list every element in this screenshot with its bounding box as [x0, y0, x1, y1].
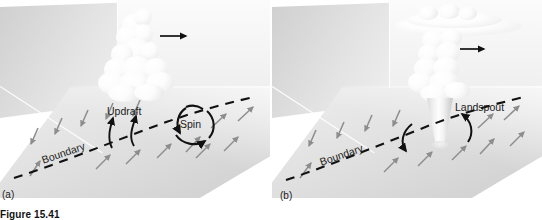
updraft-arrows-a	[109, 116, 136, 148]
panel-b-landspout-stage: Landspout Boundary (b)	[272, 0, 540, 205]
panel-tag-a: (a)	[2, 189, 14, 200]
landspout-label: Landspout	[455, 101, 504, 113]
panel-b-scene: Landspout Boundary (b)	[272, 0, 540, 205]
surface-wind-arrows-south-b	[300, 106, 524, 178]
surface-wind-arrows-south-far-a	[196, 137, 238, 158]
panel-a-scene: Updraft Spin Boundary (a)	[0, 0, 268, 205]
spin-label: Spin	[180, 118, 201, 130]
figure-caption: Figure 15.41	[0, 209, 60, 220]
panel-a-developing-stage: Updraft Spin Boundary (a)	[0, 0, 268, 205]
surface-wind-arrows-south-a	[30, 107, 253, 176]
panel-tag-b: (b)	[280, 190, 292, 201]
updraft-label: Updraft	[107, 105, 141, 117]
surface-wind-arrows-north-b	[309, 110, 400, 146]
panel-a-annotations	[0, 0, 268, 205]
